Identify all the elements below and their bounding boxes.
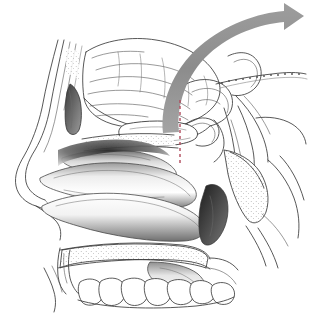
- sagittal-head-illustration: [0, 0, 309, 319]
- anatomy-figure-canvas: [0, 0, 309, 319]
